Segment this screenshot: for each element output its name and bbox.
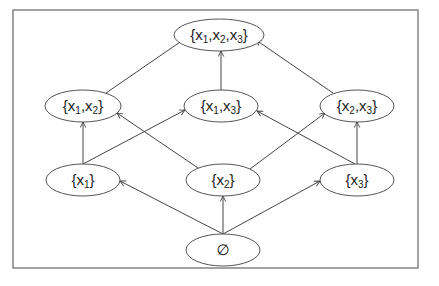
node-label: {x2} [211,171,234,190]
node-x2x3: {x2,x3} [320,90,394,122]
edge-x1x2-to-top [106,38,186,93]
node-x3: {x3} [320,164,394,196]
node-x2: {x2} [186,164,260,196]
node-x1x3: {x1,x3} [184,90,258,122]
node-empty: ∅ [186,234,260,266]
node-x1: {x1} [46,164,120,196]
edge-x2-to-x1x2 [117,113,198,168]
node-label: {x1} [71,171,94,190]
node-label: ∅ [216,241,229,258]
edge-x2-to-x2x3 [250,113,325,169]
lattice-diagram: {x1,x2,x3}{x1,x2}{x1,x3}{x2,x3}{x1}{x2}{… [0,0,439,286]
edges-group [83,38,357,234]
nodes-group: {x1,x2,x3}{x1,x2}{x1,x3}{x2,x3}{x1}{x2}{… [45,19,394,266]
edge-x2x3-to-top [256,40,333,93]
node-top: {x1,x2,x3} [174,19,264,51]
node-x1x2: {x1,x2} [45,90,121,122]
node-label: {x3} [345,171,368,190]
